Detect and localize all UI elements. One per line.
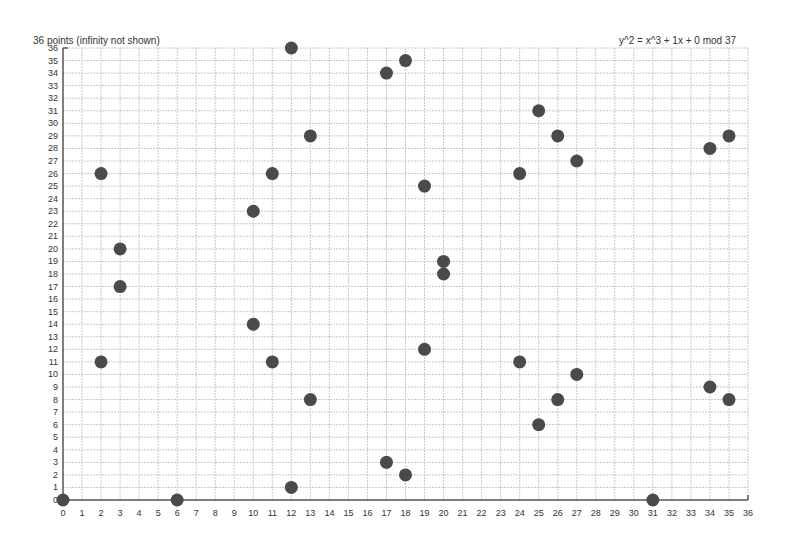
x-tick-label: 31	[648, 508, 658, 518]
curve-point	[551, 129, 564, 142]
x-tick-label: 2	[99, 508, 104, 518]
x-tick-label: 29	[610, 508, 620, 518]
curve-point	[380, 456, 393, 469]
x-tick-label: 19	[420, 508, 430, 518]
y-tick-label: 14	[48, 319, 58, 329]
x-tick-label: 13	[305, 508, 315, 518]
y-tick-label: 32	[48, 93, 58, 103]
y-tick-label: 31	[48, 106, 58, 116]
x-tick-label: 11	[268, 508, 277, 518]
curve-point	[266, 167, 279, 180]
x-tick-label: 34	[705, 508, 715, 518]
x-tick-label: 15	[343, 508, 353, 518]
curve-point	[418, 343, 431, 356]
y-tick-label: 28	[48, 143, 58, 153]
curve-point	[703, 142, 716, 155]
x-tick-label: 25	[534, 508, 544, 518]
x-tick-label: 8	[213, 508, 218, 518]
curve-point	[551, 393, 564, 406]
y-tick-label: 25	[48, 181, 58, 191]
x-tick-label: 5	[156, 508, 161, 518]
curve-point	[513, 355, 526, 368]
y-tick-label: 19	[48, 256, 58, 266]
y-tick-label: 26	[48, 169, 58, 179]
x-tick-label: 35	[724, 508, 734, 518]
x-tick-label: 1	[80, 508, 85, 518]
y-tick-label: 20	[48, 244, 58, 254]
y-tick-label: 17	[48, 282, 58, 292]
y-tick-label: 29	[48, 131, 58, 141]
y-tick-label: 6	[53, 420, 58, 430]
curve-point	[437, 255, 450, 268]
y-tick-label: 15	[48, 307, 58, 317]
curve-point	[285, 42, 298, 55]
y-tick-label: 4	[53, 445, 58, 455]
y-tick-label: 27	[48, 156, 58, 166]
curve-point	[399, 468, 412, 481]
x-tick-label: 23	[496, 508, 506, 518]
x-tick-label: 16	[362, 508, 372, 518]
curve-point	[304, 393, 317, 406]
x-tick-label: 32	[667, 508, 677, 518]
curve-point	[380, 67, 393, 80]
curve-point	[646, 494, 659, 507]
y-tick-label: 3	[53, 457, 58, 467]
y-axis-ticks: 0123456789101112131415161718192021222324…	[48, 43, 58, 505]
curve-point	[399, 54, 412, 67]
x-tick-label: 14	[324, 508, 334, 518]
x-tick-label: 33	[686, 508, 696, 518]
curve-point	[114, 242, 127, 255]
curve-point	[266, 355, 279, 368]
curve-point	[722, 129, 735, 142]
curve-point	[247, 205, 260, 218]
curve-point	[247, 318, 260, 331]
y-tick-label: 8	[53, 395, 58, 405]
grid-lines	[63, 48, 748, 500]
x-tick-label: 10	[248, 508, 258, 518]
y-tick-label: 2	[53, 470, 58, 480]
curve-point	[513, 167, 526, 180]
y-tick-label: 18	[48, 269, 58, 279]
curve-point	[95, 355, 108, 368]
x-tick-label: 27	[572, 508, 582, 518]
y-tick-label: 36	[48, 43, 58, 53]
y-tick-label: 11	[49, 357, 58, 367]
y-tick-label: 33	[48, 81, 58, 91]
y-tick-label: 23	[48, 206, 58, 216]
x-tick-label: 6	[175, 508, 180, 518]
x-tick-label: 21	[458, 508, 468, 518]
y-tick-label: 7	[53, 407, 58, 417]
y-tick-label: 12	[48, 344, 58, 354]
curve-point	[114, 280, 127, 293]
y-tick-label: 16	[48, 294, 58, 304]
y-tick-label: 21	[48, 231, 58, 241]
x-tick-label: 12	[286, 508, 296, 518]
curve-point	[437, 268, 450, 281]
curve-point	[570, 368, 583, 381]
y-tick-label: 10	[48, 369, 58, 379]
x-tick-label: 20	[439, 508, 449, 518]
x-tick-label: 22	[477, 508, 487, 518]
curve-point	[532, 104, 545, 117]
curve-point	[722, 393, 735, 406]
curve-point	[285, 481, 298, 494]
y-tick-label: 24	[48, 194, 58, 204]
y-tick-label: 22	[48, 219, 58, 229]
x-tick-label: 17	[381, 508, 391, 518]
curve-point	[95, 167, 108, 180]
curve-point	[532, 418, 545, 431]
curve-point	[570, 155, 583, 168]
curve-point	[171, 494, 184, 507]
y-tick-label: 1	[53, 482, 58, 492]
y-tick-label: 13	[48, 332, 58, 342]
x-tick-label: 36	[743, 508, 753, 518]
x-tick-label: 26	[553, 508, 563, 518]
y-tick-label: 9	[53, 382, 58, 392]
x-axis-ticks: 0123456789101112131415161718192021222324…	[60, 508, 753, 518]
y-tick-label: 30	[48, 118, 58, 128]
curve-point	[304, 129, 317, 142]
x-tick-label: 30	[629, 508, 639, 518]
x-tick-label: 28	[591, 508, 601, 518]
y-tick-label: 34	[48, 68, 58, 78]
curve-point	[57, 494, 70, 507]
